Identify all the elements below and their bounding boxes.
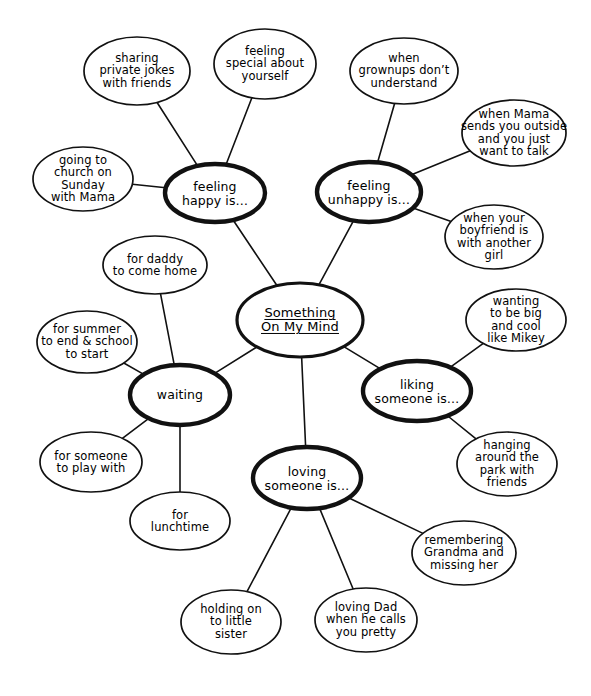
node-ellipse-when-grownups[interactable] <box>350 38 458 104</box>
node-ellipse-for-someone-to-play[interactable] <box>40 432 142 492</box>
edge-feeling-happy-to-going-to-church <box>132 184 165 188</box>
node-ellipse-waiting[interactable] <box>130 365 230 425</box>
node-ellipse-feeling-special[interactable] <box>214 29 316 99</box>
node-ellipse-sharing-private-jokes[interactable] <box>84 37 190 105</box>
edge-feeling-happy-to-feeling-special <box>226 98 252 165</box>
edge-center-to-feeling-unhappy <box>319 221 354 285</box>
node-ellipse-remembering-grandma[interactable] <box>412 521 516 585</box>
edge-waiting-to-for-daddy <box>161 294 175 365</box>
mind-map-graphics <box>0 0 591 696</box>
edge-feeling-unhappy-to-when-grownups <box>378 104 395 163</box>
node-ellipse-wanting-to-be-big[interactable] <box>466 289 566 351</box>
node-ellipse-for-daddy[interactable] <box>103 236 207 294</box>
node-ellipse-for-lunchtime[interactable] <box>130 492 230 550</box>
edge-center-to-feeling-happy <box>233 220 277 286</box>
node-ellipse-loving-someone[interactable] <box>253 447 361 509</box>
edge-center-to-loving-someone <box>302 357 306 447</box>
edge-feeling-unhappy-to-when-mama-sends <box>411 151 470 175</box>
node-ellipse-liking-someone[interactable] <box>363 361 471 421</box>
node-ellipse-center[interactable] <box>237 283 363 357</box>
node-ellipse-holding-on-sister[interactable] <box>181 590 281 654</box>
edge-loving-someone-to-holding-on-sister <box>247 508 291 592</box>
edge-feeling-happy-to-sharing-private-jokes <box>157 102 198 165</box>
node-ellipse-going-to-church[interactable] <box>33 147 133 211</box>
mind-map-canvas: Something On My Mindfeeling happy is…fee… <box>0 0 591 696</box>
node-ellipse-feeling-happy[interactable] <box>165 164 265 222</box>
edge-loving-someone-to-remembering-grandma <box>349 498 423 534</box>
edge-liking-someone-to-hanging-around-park <box>448 416 477 439</box>
node-ellipse-when-mama-sends[interactable] <box>462 100 566 166</box>
node-ellipse-loving-dad[interactable] <box>315 588 417 652</box>
node-ellipse-feeling-unhappy[interactable] <box>317 162 421 222</box>
edge-liking-someone-to-wanting-to-be-big <box>450 343 483 367</box>
edge-center-to-waiting <box>215 347 257 373</box>
edge-waiting-to-for-summer <box>124 363 144 374</box>
node-ellipse-hanging-around-park[interactable] <box>457 432 557 496</box>
node-ellipse-when-boyfriend[interactable] <box>445 205 543 269</box>
edge-waiting-to-for-someone-to-play <box>122 418 148 438</box>
node-layer <box>33 29 566 654</box>
edge-feeling-unhappy-to-when-boyfriend <box>413 208 451 222</box>
node-ellipse-for-summer[interactable] <box>37 311 137 373</box>
edge-center-to-liking-someone <box>344 347 381 369</box>
edge-loving-someone-to-loving-dad <box>320 508 354 589</box>
